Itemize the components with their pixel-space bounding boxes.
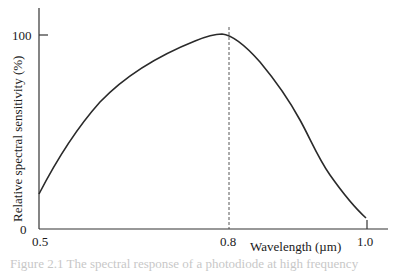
spectral-sensitivity-chart: 100 0 0.5 0.8 1.0 Wavelength (µm) Relati… <box>0 0 398 272</box>
figure-caption: Figure 2.1 The spectral response of a ph… <box>10 256 358 272</box>
x-tick-label-0-8: 0.8 <box>220 234 236 249</box>
x-tick-label-1-0: 1.0 <box>357 234 373 249</box>
y-axis-label: Relative spectral sensitivity (%) <box>10 56 25 222</box>
y-tick-label-0: 0 <box>20 222 27 237</box>
x-tick-label-0-5: 0.5 <box>32 234 48 249</box>
x-axis-label: Wavelength (µm) <box>250 239 341 254</box>
y-tick-label-100: 100 <box>12 28 32 43</box>
sensitivity-curve <box>39 34 366 218</box>
